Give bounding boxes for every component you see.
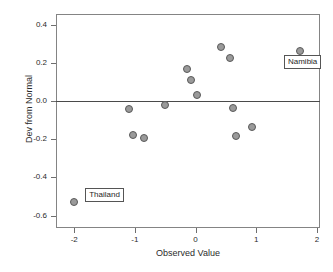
x-tick-mark [317, 228, 318, 233]
zero-reference-line [56, 101, 320, 102]
x-tick-mark [256, 228, 257, 233]
point-callout-label: Thailand [85, 188, 124, 202]
x-axis-title: Observed Value [56, 248, 320, 258]
y-tick-mark [51, 25, 56, 26]
x-tick-label: 2 [305, 236, 329, 244]
y-tick-mark [51, 216, 56, 217]
x-tick-mark [196, 228, 197, 233]
scatter-chart: 0.40.20.0-0.2-0.4-0.6 -2-1012 ThailandNa… [0, 0, 333, 272]
x-tick-mark [74, 228, 75, 233]
y-tick-label: 0.4 [10, 21, 47, 29]
x-tick-label: 1 [244, 236, 268, 244]
data-point [226, 54, 234, 62]
y-tick-mark [51, 63, 56, 64]
point-callout-label: Namibia [284, 55, 321, 69]
x-tick-label: -1 [123, 236, 147, 244]
data-point [140, 134, 148, 142]
y-tick-mark [51, 139, 56, 140]
x-tick-mark [135, 228, 136, 233]
data-point [229, 104, 237, 112]
y-tick-mark [51, 101, 56, 102]
data-point [232, 132, 240, 140]
y-tick-label: -0.6 [10, 212, 47, 220]
data-point [183, 65, 191, 73]
x-tick-label: 0 [184, 236, 208, 244]
y-tick-mark [51, 177, 56, 178]
y-axis-title: Dev from Normal [24, 34, 34, 184]
x-tick-label: -2 [62, 236, 86, 244]
data-point [193, 91, 201, 99]
